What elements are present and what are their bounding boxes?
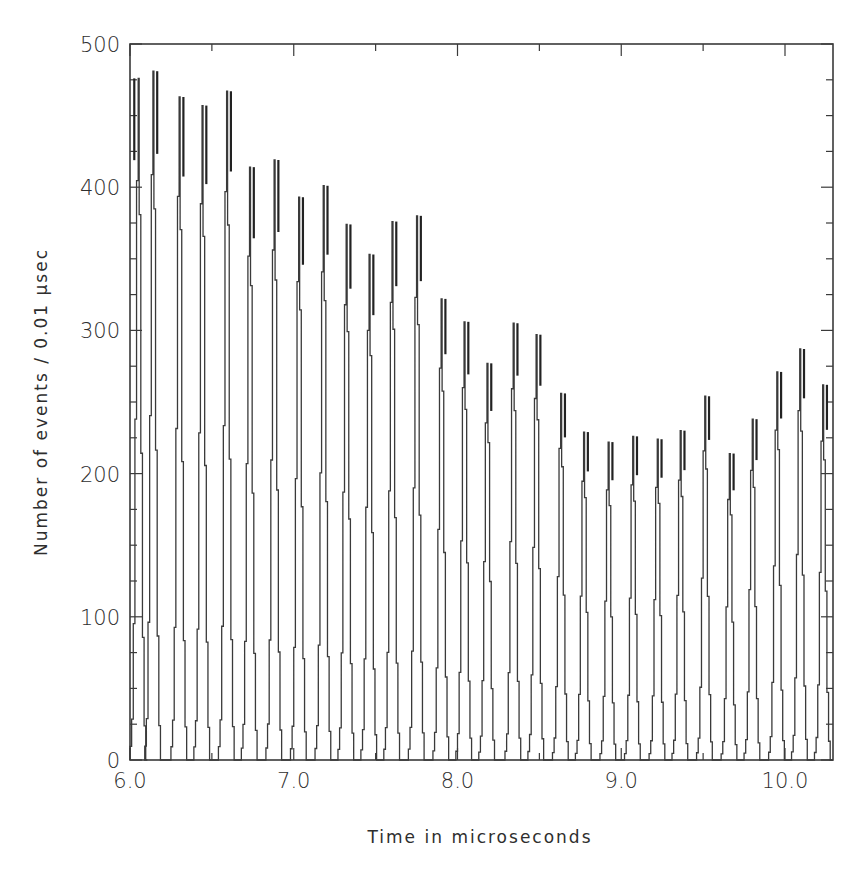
chart: 0100200300400500 6.07.08.09.010.0 Time i… — [0, 0, 867, 877]
x-tick-label: 10.0 — [762, 769, 809, 793]
y-tick-label: 300 — [80, 319, 120, 343]
y-axis-ticks: 0100200300400500 — [80, 33, 833, 773]
y-tick-label: 500 — [80, 33, 120, 57]
x-tick-label: 8.0 — [441, 769, 474, 793]
y-axis-title: Number of events / 0.01 μsec — [31, 248, 51, 556]
plot-border — [130, 44, 833, 760]
x-axis-title: Time in microseconds — [366, 827, 592, 847]
x-tick-label: 6.0 — [113, 769, 146, 793]
y-tick-label: 200 — [80, 463, 120, 487]
y-tick-label: 400 — [80, 176, 120, 200]
x-tick-label: 7.0 — [277, 769, 310, 793]
plot-frame — [130, 44, 833, 760]
x-tick-label: 9.0 — [605, 769, 638, 793]
event-count-histogram — [130, 71, 833, 760]
histogram-series — [130, 71, 833, 760]
y-tick-label: 100 — [80, 606, 120, 630]
